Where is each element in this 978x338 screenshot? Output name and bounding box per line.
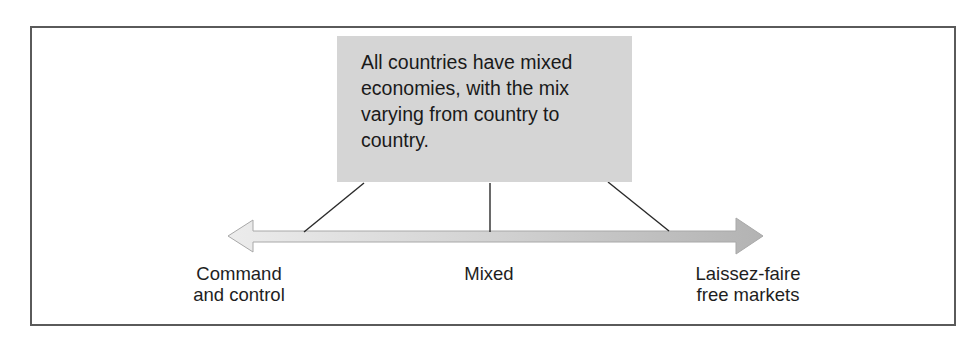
- label-mixed: Mixed: [439, 263, 539, 284]
- double-arrow-icon: [228, 218, 763, 254]
- label-right-line-2: free markets: [683, 284, 813, 305]
- callout-line-4: country.: [361, 127, 614, 153]
- callout-line-2: economies, with the mix: [361, 75, 614, 101]
- callout-box: All countries have mixed economies, with…: [337, 36, 632, 182]
- label-mid-line-1: Mixed: [439, 263, 539, 284]
- label-command-and-control: Command and control: [179, 263, 299, 305]
- label-left-line-2: and control: [179, 284, 299, 305]
- callout-line-1: All countries have mixed: [361, 49, 614, 75]
- label-right-line-1: Laissez-faire: [683, 263, 813, 284]
- label-left-line-1: Command: [179, 263, 299, 284]
- connector-left: [304, 183, 364, 232]
- connector-right: [608, 182, 669, 231]
- label-laissez-faire: Laissez-faire free markets: [683, 263, 813, 305]
- callout-line-3: varying from country to: [361, 101, 614, 127]
